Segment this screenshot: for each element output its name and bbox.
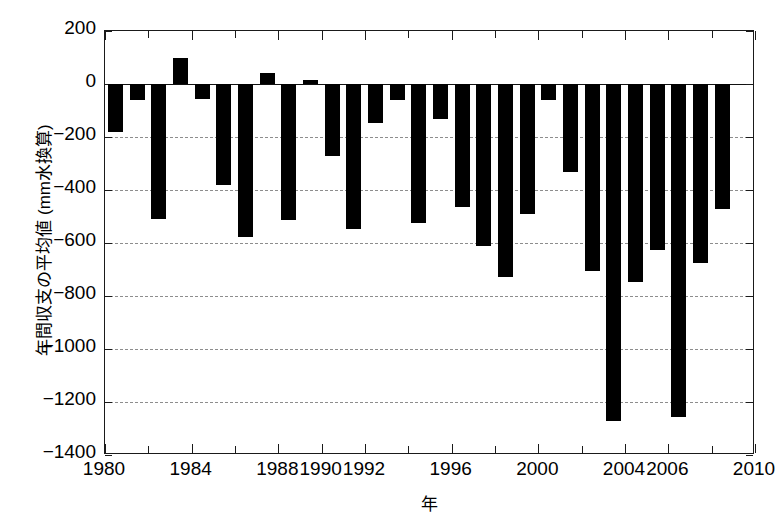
bar [195, 84, 210, 99]
y-axis-tick [105, 296, 112, 297]
x-axis-tick [408, 446, 409, 453]
bar [715, 84, 730, 209]
bar [650, 84, 665, 250]
bar [390, 84, 405, 100]
y-axis-tick [746, 31, 753, 32]
x-axis-tick-label: 1980 [83, 458, 125, 480]
x-axis-tick [668, 31, 669, 40]
bar [541, 84, 556, 100]
bar [281, 84, 296, 220]
bar [368, 84, 383, 123]
bar [671, 84, 686, 417]
x-axis-tick [322, 444, 323, 453]
x-axis-tick [105, 444, 106, 453]
x-axis-tick [668, 444, 669, 453]
x-axis-tick [235, 446, 236, 453]
x-axis-tick [452, 444, 453, 453]
gridline [105, 296, 753, 297]
y-axis-tick [105, 243, 112, 244]
y-axis-tick [746, 455, 753, 456]
x-axis-tick-label: 2010 [733, 458, 775, 480]
bar [260, 73, 275, 84]
x-axis-tick [365, 31, 366, 40]
x-axis-tick-label: 1996 [430, 458, 472, 480]
x-axis-tick [495, 446, 496, 453]
x-axis-tick [148, 31, 149, 38]
bar [130, 84, 145, 100]
y-axis-tick [105, 137, 112, 138]
bar [433, 84, 448, 119]
bar [476, 84, 491, 246]
y-axis-tick [746, 349, 753, 350]
x-axis-tick-label: 2000 [516, 458, 558, 480]
y-axis-tick [105, 349, 112, 350]
x-axis-tick [712, 31, 713, 38]
x-axis-tick [322, 31, 323, 40]
y-axis-tick [746, 190, 753, 191]
x-axis-tick [625, 444, 626, 453]
y-axis-tick-label: −1200 [43, 388, 96, 410]
bar [238, 84, 253, 237]
bar [563, 84, 578, 172]
y-axis-tick [105, 190, 112, 191]
bar [520, 84, 535, 214]
bar [151, 84, 166, 219]
x-axis-tick [192, 31, 193, 40]
x-axis-tick [712, 446, 713, 453]
y-axis-tick [746, 243, 753, 244]
x-axis-tick [755, 444, 756, 453]
y-axis-tick [746, 296, 753, 297]
y-axis-tick-label: 200 [64, 17, 96, 39]
bar [693, 84, 708, 263]
bar [455, 84, 470, 207]
x-axis-tick-label: 1992 [343, 458, 385, 480]
bar [325, 84, 340, 156]
y-axis-tick [746, 137, 753, 138]
y-axis-tick-label: −800 [53, 282, 96, 304]
x-axis-tick-label: 1990 [300, 458, 342, 480]
bar [606, 84, 621, 421]
y-axis-tick [105, 455, 112, 456]
bar [216, 84, 231, 185]
y-axis-tick-label: 0 [85, 70, 96, 92]
x-axis-tick [538, 444, 539, 453]
x-axis-tick [105, 31, 106, 40]
x-axis-tick [452, 31, 453, 40]
bar [498, 84, 513, 277]
y-axis-tick-label: −400 [53, 176, 96, 198]
x-axis-tick [582, 446, 583, 453]
x-axis-tick [582, 31, 583, 38]
x-axis-tick [365, 444, 366, 453]
x-axis-tick-label: 2006 [646, 458, 688, 480]
x-axis-tick-label: 1988 [256, 458, 298, 480]
x-axis-tick [278, 31, 279, 40]
chart-figure: 年間収支の平均値 (mm水換算) 年 2000−200−400−600−800−… [0, 0, 778, 523]
y-axis-tick-label: −600 [53, 229, 96, 251]
bar [628, 84, 643, 282]
x-axis-tick-label: 2004 [603, 458, 645, 480]
y-axis-tick [746, 84, 753, 85]
y-axis-tick [105, 31, 112, 32]
bar [346, 84, 361, 229]
x-axis-tick-label: 1984 [170, 458, 212, 480]
gridline [105, 349, 753, 350]
y-axis-tick [105, 402, 112, 403]
x-axis-tick [192, 444, 193, 453]
bar [303, 80, 318, 84]
bar [411, 84, 426, 223]
x-axis-tick [755, 31, 756, 40]
bar [585, 84, 600, 271]
y-axis-tick-label: −200 [53, 123, 96, 145]
gridline [105, 402, 753, 403]
y-axis-tick [746, 402, 753, 403]
y-axis-tick-label: −1000 [43, 335, 96, 357]
bar [173, 58, 188, 85]
x-axis-tick [625, 31, 626, 40]
x-axis-tick [495, 31, 496, 38]
x-axis-tick [278, 444, 279, 453]
x-axis-title: 年 [104, 490, 754, 515]
x-axis-tick [408, 31, 409, 38]
x-axis-tick [148, 446, 149, 453]
bar [108, 84, 123, 132]
x-axis-tick [538, 31, 539, 40]
